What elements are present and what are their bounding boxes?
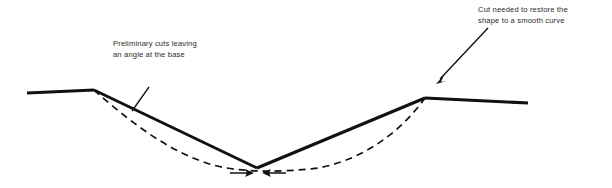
preliminary-cuts-note-line2: an angle at the base bbox=[113, 49, 197, 60]
solid-profile-left-flat bbox=[27, 90, 94, 93]
preliminary-cuts-note-line1: Preliminary cuts leaving bbox=[113, 38, 197, 49]
restoring-cut-note: Cut needed to restore the shape to a smo… bbox=[478, 4, 568, 26]
restoring-cut-note-line2: shape to a smooth curve bbox=[478, 15, 568, 26]
dashed-smooth-curve bbox=[94, 90, 425, 171]
carving-cut-diagram: Preliminary cuts leaving an angle at the… bbox=[0, 0, 612, 188]
arrow-right-label-head bbox=[436, 75, 447, 84]
solid-profile-right-bevel bbox=[257, 98, 425, 168]
preliminary-cuts-note: Preliminary cuts leaving an angle at the… bbox=[113, 38, 197, 60]
restoring-cut-note-line1: Cut needed to restore the bbox=[478, 4, 568, 15]
leader-line-left bbox=[132, 87, 149, 111]
solid-profile-left-bevel bbox=[94, 90, 257, 168]
arrow-right-label-shaft bbox=[440, 28, 488, 79]
diagram-canvas bbox=[0, 0, 612, 188]
solid-profile-right-flat bbox=[425, 98, 528, 103]
